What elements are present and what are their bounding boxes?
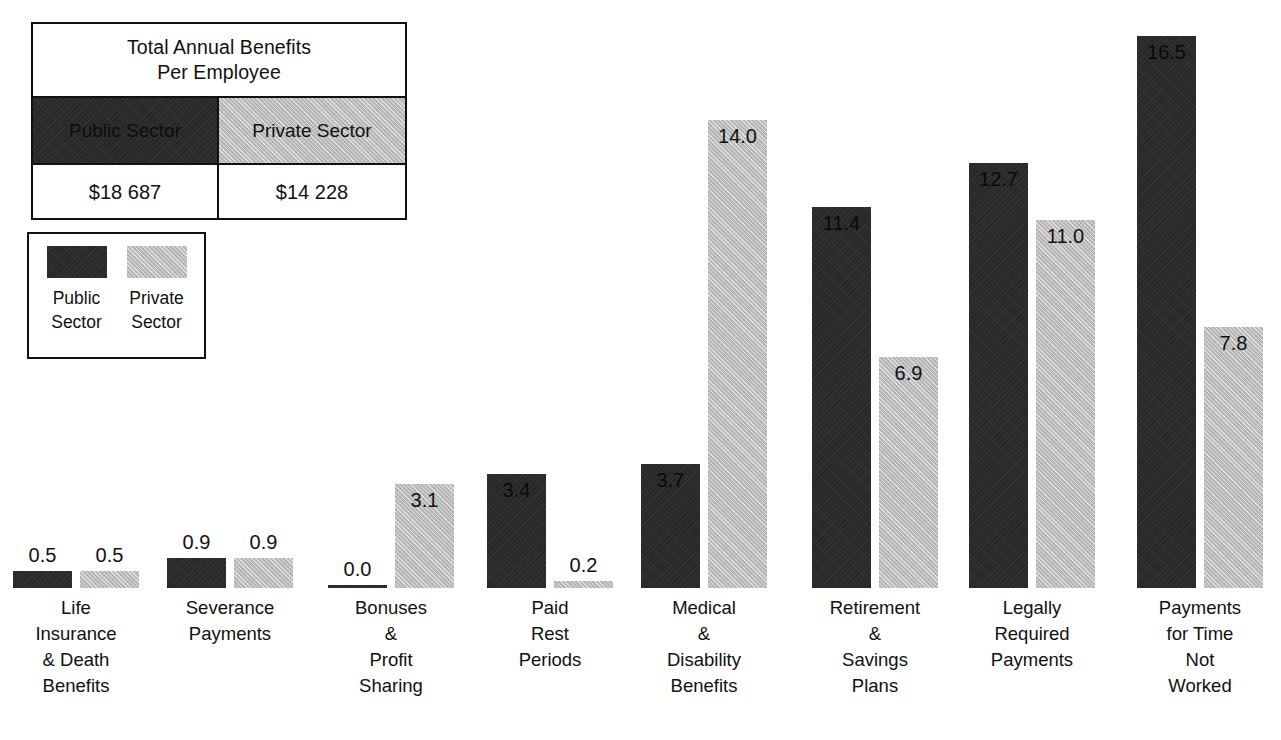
category-label-3-line-0: Paid: [465, 595, 635, 621]
bar-value-label-private-3: 0.2: [554, 555, 613, 575]
bar-value-label-private-7: 7.8: [1204, 333, 1263, 353]
bar-value-label-private-5: 6.9: [879, 363, 938, 383]
category-label-3: PaidRestPeriods: [465, 595, 635, 740]
bar-value-label-public-0: 0.5: [13, 545, 72, 565]
category-label-3-line-2: Periods: [465, 647, 635, 673]
bar-private-1: 0.9: [234, 558, 293, 588]
category-label-7: Paymentsfor TimeNotWorked: [1115, 595, 1281, 740]
category-label-0-line-3: Benefits: [0, 673, 161, 699]
category-label-7-line-2: Not: [1115, 647, 1281, 673]
category-label-1: SeverancePayments: [145, 595, 315, 740]
bar-private-7: 7.8: [1204, 327, 1263, 588]
bar-public-6: 12.7: [969, 163, 1028, 588]
bar-value-label-private-4: 14.0: [708, 126, 767, 146]
category-label-5-line-0: Retirement: [790, 595, 960, 621]
category-label-5: Retirement&SavingsPlans: [790, 595, 960, 740]
bar-public-2: 0.0: [328, 585, 387, 588]
bar-private-4: 14.0: [708, 120, 767, 588]
bar-public-0: 0.5: [13, 571, 72, 588]
bar-public-4: 3.7: [641, 464, 700, 588]
category-label-4-line-3: Benefits: [619, 673, 789, 699]
bar-private-6: 11.0: [1036, 220, 1095, 588]
category-label-4-line-2: Disability: [619, 647, 789, 673]
bar-value-label-public-3: 3.4: [487, 480, 546, 500]
category-label-3-line-1: Rest: [465, 621, 635, 647]
category-label-1-line-1: Payments: [145, 621, 315, 647]
category-label-4-line-0: Medical: [619, 595, 789, 621]
category-label-0-line-1: Insurance: [0, 621, 161, 647]
category-label-5-line-1: &: [790, 621, 960, 647]
bar-private-2: 3.1: [395, 484, 454, 588]
bar-public-3: 3.4: [487, 474, 546, 588]
bar-value-label-private-6: 11.0: [1036, 226, 1095, 246]
bar-value-label-public-2: 0.0: [328, 559, 387, 579]
bar-public-5: 11.4: [812, 207, 871, 588]
bar-value-label-private-1: 0.9: [234, 532, 293, 552]
bar-public-7: 16.5: [1137, 36, 1196, 588]
category-label-2-line-2: Profit: [306, 647, 476, 673]
bar-chart-plot-area: 0.50.90.03.43.711.412.716.50.50.93.10.21…: [0, 0, 1281, 740]
category-label-0: LifeInsurance& DeathBenefits: [0, 595, 161, 740]
category-label-6-line-0: Legally: [947, 595, 1117, 621]
bar-value-label-public-4: 3.7: [641, 470, 700, 490]
category-label-2-line-3: Sharing: [306, 673, 476, 699]
category-label-4-line-1: &: [619, 621, 789, 647]
category-label-0-line-2: & Death: [0, 647, 161, 673]
bar-value-label-public-1: 0.9: [167, 532, 226, 552]
bar-private-0: 0.5: [80, 571, 139, 588]
bar-value-label-public-6: 12.7: [969, 169, 1028, 189]
category-label-4: Medical&DisabilityBenefits: [619, 595, 789, 740]
bar-private-3: 0.2: [554, 581, 613, 588]
category-label-7-line-0: Payments: [1115, 595, 1281, 621]
bar-value-label-public-7: 16.5: [1137, 42, 1196, 62]
category-label-0-line-0: Life: [0, 595, 161, 621]
bar-value-label-private-0: 0.5: [80, 545, 139, 565]
category-label-7-line-3: Worked: [1115, 673, 1281, 699]
bar-value-label-private-2: 3.1: [395, 490, 454, 510]
category-label-6: LegallyRequiredPayments: [947, 595, 1117, 740]
category-label-2-line-1: &: [306, 621, 476, 647]
category-label-6-line-2: Payments: [947, 647, 1117, 673]
bar-private-5: 6.9: [879, 357, 938, 588]
category-label-1-line-0: Severance: [145, 595, 315, 621]
category-label-5-line-2: Savings: [790, 647, 960, 673]
category-label-2: Bonuses&ProfitSharing: [306, 595, 476, 740]
bar-public-1: 0.9: [167, 558, 226, 588]
category-label-2-line-0: Bonuses: [306, 595, 476, 621]
category-label-7-line-1: for Time: [1115, 621, 1281, 647]
category-label-5-line-3: Plans: [790, 673, 960, 699]
category-label-6-line-1: Required: [947, 621, 1117, 647]
bar-value-label-public-5: 11.4: [812, 213, 871, 233]
